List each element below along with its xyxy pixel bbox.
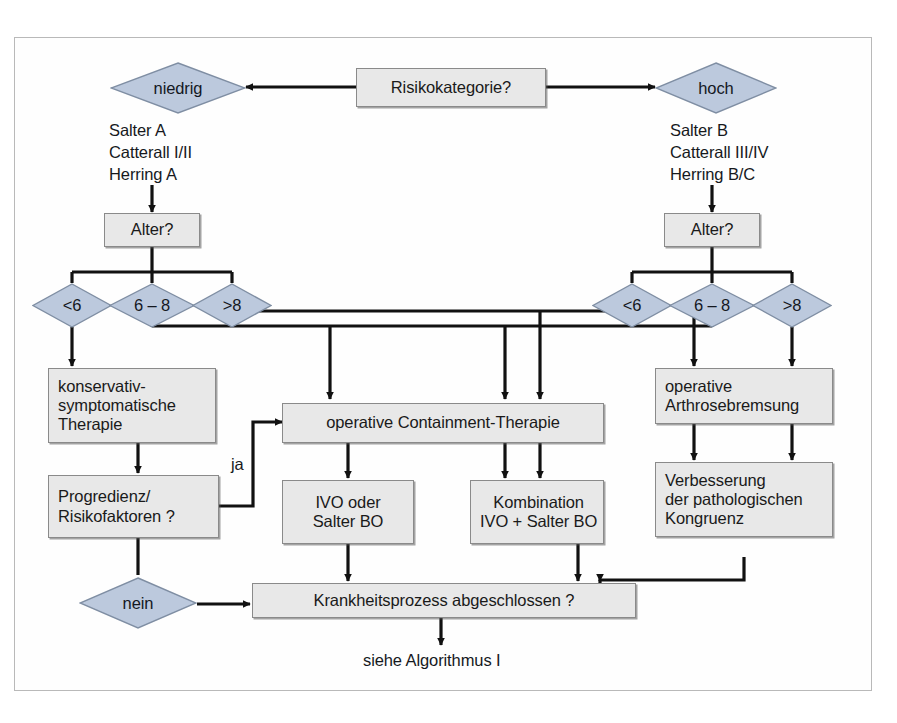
node-ivo-oder-salter[interactable]: IVO oder Salter BO xyxy=(282,480,414,544)
node-right-lt6-label: <6 xyxy=(623,296,642,315)
node-risikokategorie-label: Risikokategorie? xyxy=(357,78,545,97)
node-kombination-label: Kombination IVO + Salter BO xyxy=(471,493,606,532)
node-containment-label: operative Containment-Therapie xyxy=(283,413,603,432)
caption-right-criteria: Salter B Catterall III/IV Herring B/C xyxy=(670,120,768,186)
caption-siehe-algorithmus: siehe Algorithmus I xyxy=(363,650,501,672)
node-arthrosebremsung[interactable]: operative Arthrosebremsung xyxy=(655,368,833,424)
node-right-gt8[interactable]: >8 xyxy=(752,283,832,328)
node-right-6-8[interactable]: 6 – 8 xyxy=(669,283,755,328)
node-left-6-8-label: 6 – 8 xyxy=(134,296,170,315)
node-hoch-label: hoch xyxy=(698,79,733,98)
node-left-gt8[interactable]: >8 xyxy=(192,283,272,328)
node-kongruenz-label: Verbesserung der pathologischen Kongruen… xyxy=(656,471,832,529)
node-konservativ[interactable]: konservativ- symptomatische Therapie xyxy=(48,368,216,443)
node-nein-label: nein xyxy=(123,594,154,613)
node-niedrig[interactable]: niedrig xyxy=(110,62,246,114)
caption-left-criteria: Salter A Catterall I/II Herring A xyxy=(109,120,192,186)
node-risikokategorie[interactable]: Risikokategorie? xyxy=(356,68,546,107)
node-alter-left-label: Alter? xyxy=(105,220,199,239)
node-right-gt8-label: >8 xyxy=(783,296,802,315)
node-right-lt6[interactable]: <6 xyxy=(592,283,672,328)
node-krankheitsprozess-label: Krankheitsprozess abgeschlossen ? xyxy=(253,591,635,610)
node-nein[interactable]: nein xyxy=(79,577,197,629)
node-left-6-8[interactable]: 6 – 8 xyxy=(109,283,195,328)
node-alter-left[interactable]: Alter? xyxy=(104,213,200,247)
node-niedrig-label: niedrig xyxy=(154,79,203,98)
node-containment[interactable]: operative Containment-Therapie xyxy=(282,403,604,443)
node-ivo-oder-salter-label: IVO oder Salter BO xyxy=(283,493,413,532)
node-kombination[interactable]: Kombination IVO + Salter BO xyxy=(470,480,604,544)
edge-label-ja: ja xyxy=(231,455,244,474)
node-kongruenz[interactable]: Verbesserung der pathologischen Kongruen… xyxy=(655,462,833,537)
node-progredienz[interactable]: Progredienz/ Risikofaktoren ? xyxy=(48,475,219,538)
node-left-lt6-label: <6 xyxy=(63,296,82,315)
node-alter-right-label: Alter? xyxy=(665,220,759,239)
node-konservativ-label: konservativ- symptomatische Therapie xyxy=(49,377,215,435)
node-left-lt6[interactable]: <6 xyxy=(32,283,112,328)
diagram-canvas: Risikokategorie? niedrig hoch Salter A C… xyxy=(0,0,897,723)
node-arthrosebremsung-label: operative Arthrosebremsung xyxy=(656,377,832,416)
node-alter-right[interactable]: Alter? xyxy=(664,213,760,247)
node-progredienz-label: Progredienz/ Risikofaktoren ? xyxy=(49,487,218,526)
node-krankheitsprozess[interactable]: Krankheitsprozess abgeschlossen ? xyxy=(252,583,636,618)
node-right-6-8-label: 6 – 8 xyxy=(694,296,730,315)
node-left-gt8-label: >8 xyxy=(223,296,242,315)
node-hoch[interactable]: hoch xyxy=(655,62,777,114)
